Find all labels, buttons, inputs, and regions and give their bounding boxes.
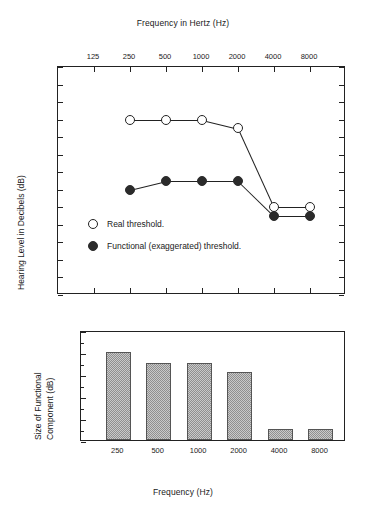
audiogram-marker-functional: [125, 185, 135, 195]
audiogram-ytick-right: [339, 172, 344, 173]
bar-y-axis-title-line1: Size of Functional: [33, 372, 43, 440]
audiogram-xtick-top: [274, 67, 275, 72]
audiogram-xtick-label: 4000: [265, 52, 282, 61]
audiogram-marker-real: [197, 115, 207, 125]
audiogram-ytick-left: [58, 137, 63, 138]
bar-ytick-minor: [81, 343, 84, 344]
audiogram-ytick-right: [339, 120, 344, 121]
audiogram-xtick-top: [94, 67, 95, 72]
audiogram-xtick-top: [202, 67, 203, 72]
audiogram-ytick-right: [339, 137, 344, 138]
bar-500: [146, 363, 171, 440]
audiogram-marker-functional: [197, 176, 207, 186]
audiogram-xtick-label: 8000: [301, 52, 318, 61]
audiogram-plot-area: Real threshold. Functional (exaggerated)…: [57, 66, 345, 294]
audiogram-marker-real: [233, 123, 243, 133]
audiogram-xtick-bottom: [310, 288, 311, 293]
bar-250: [106, 352, 131, 440]
audiogram-marker-functional: [161, 176, 171, 186]
bar-8000: [308, 429, 333, 440]
audiogram-xtick-top: [130, 67, 131, 72]
bar-xtick-label: 2000: [230, 446, 247, 455]
audiogram-x-axis-title: Frequency in Hertz (Hz): [0, 18, 366, 28]
audiogram-marker-functional: [305, 211, 315, 221]
audiogram-ytick-left: [58, 67, 63, 68]
audiogram-xtick-bottom: [166, 288, 167, 293]
bar-ytick-major: [81, 376, 86, 377]
audiogram-ytick-left: [58, 277, 63, 278]
legend-item-real: Real threshold.: [88, 219, 164, 229]
audiogram-marker-functional: [269, 211, 279, 221]
audiogram-xtick-label: 2000: [229, 52, 246, 61]
audiogram-line-segment: [238, 129, 275, 208]
bar-ytick-major: [81, 442, 86, 443]
legend-label-real: Real threshold.: [107, 219, 164, 229]
audiogram-ytick-right: [339, 207, 344, 208]
audiogram-xtick-bottom: [130, 288, 131, 293]
bar-1000: [187, 363, 212, 440]
bar-xtick-label: 250: [111, 446, 124, 455]
bar-y-axis-title-line2: Component (dB): [45, 378, 55, 440]
audiogram-xtick-label: 250: [123, 52, 136, 61]
audiogram-ytick-right: [339, 155, 344, 156]
audiogram-ytick-left: [58, 172, 63, 173]
audiogram-xtick-label: 125: [87, 52, 100, 61]
audiogram-xtick-bottom: [238, 288, 239, 293]
audiogram-ytick-right: [339, 85, 344, 86]
bar-ytick-major: [81, 398, 86, 399]
audiogram-y-axis-title: Hearing Level in Decibels (dB): [16, 175, 26, 290]
audiogram-ytick-left: [58, 225, 63, 226]
bar-ytick-major: [81, 332, 86, 333]
audiogram-ytick-right: [339, 277, 344, 278]
audiogram-ytick-left: [58, 155, 63, 156]
bar-ytick-major: [81, 354, 86, 355]
bar-ytick-minor: [81, 431, 84, 432]
bar-chart-plot-area: [80, 331, 345, 441]
audiogram-ytick-left: [58, 242, 63, 243]
audiogram-ytick-left: [58, 85, 63, 86]
audiogram-xtick-top: [166, 67, 167, 72]
bar-xtick-label: 8000: [311, 446, 328, 455]
audiogram-ytick-right: [339, 67, 344, 68]
audiogram-ytick-left: [58, 207, 63, 208]
audiogram-ytick-right: [339, 190, 344, 191]
bar-ytick-major: [81, 420, 86, 421]
audiogram-ytick-left: [58, 295, 63, 296]
audiogram-ytick-right: [339, 295, 344, 296]
audiogram-xtick-bottom: [202, 288, 203, 293]
audiogram-ytick-left: [58, 260, 63, 261]
audiogram-xtick-bottom: [274, 288, 275, 293]
audiogram-marker-functional: [233, 176, 243, 186]
audiogram-ytick-right: [339, 260, 344, 261]
bar-ytick-minor: [81, 387, 84, 388]
bar-2000: [227, 372, 252, 440]
audiogram-ytick-right: [339, 225, 344, 226]
legend-item-functional: Functional (exaggerated) threshold.: [88, 241, 241, 251]
audiogram-marker-real: [161, 115, 171, 125]
audiogram-ytick-right: [339, 242, 344, 243]
legend-label-functional: Functional (exaggerated) threshold.: [107, 241, 241, 251]
figure-root: Frequency in Hertz (Hz) Hearing Level in…: [0, 0, 366, 510]
audiogram-ytick-left: [58, 102, 63, 103]
bar-ytick-minor: [81, 409, 84, 410]
bar-x-axis-title: Frequency (Hz): [0, 487, 366, 497]
bar-xtick-label: 4000: [271, 446, 288, 455]
bar-xtick-label: 500: [151, 446, 164, 455]
bar-ytick-minor: [81, 365, 84, 366]
audiogram-xtick-label: 1000: [193, 52, 210, 61]
audiogram-marker-real: [269, 202, 279, 212]
audiogram-xtick-top: [238, 67, 239, 72]
audiogram-xtick-bottom: [94, 288, 95, 293]
audiogram-ytick-left: [58, 190, 63, 191]
bar-4000: [268, 429, 293, 440]
open-circle-icon: [88, 219, 98, 229]
audiogram-xtick-label: 500: [159, 52, 172, 61]
bar-xtick-label: 1000: [190, 446, 207, 455]
audiogram-ytick-left: [58, 120, 63, 121]
audiogram-marker-real: [305, 202, 315, 212]
audiogram-ytick-right: [339, 102, 344, 103]
filled-circle-icon: [88, 241, 98, 251]
audiogram-xtick-top: [310, 67, 311, 72]
audiogram-marker-real: [125, 115, 135, 125]
